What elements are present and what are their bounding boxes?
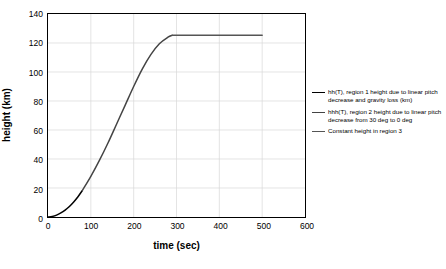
y-tick-label: 120: [29, 38, 43, 48]
legend-line-icon: [312, 112, 325, 113]
legend: hh(T), region 1 height due to linear pit…: [312, 88, 442, 139]
data-curves: [48, 14, 305, 217]
legend-entry: Constant height in region 3: [312, 127, 442, 135]
y-tick-label: 20: [34, 185, 43, 195]
x-tick-label: 400: [214, 221, 228, 231]
legend-label: hh(T), region 1 height due to linear pit…: [328, 88, 442, 105]
legend-entry: hh(T), region 1 height due to linear pit…: [312, 88, 442, 105]
y-tick-label: 60: [34, 126, 43, 136]
legend-label: hhh(T), region 2 height due to linear pi…: [328, 108, 442, 125]
y-tick-label: 140: [29, 9, 43, 19]
legend-line-icon: [312, 131, 325, 132]
x-tick-label: 100: [84, 221, 98, 231]
x-tick-label: 200: [127, 221, 141, 231]
legend-entry: hhh(T), region 2 height due to linear pi…: [312, 108, 442, 125]
y-axis-title: height (km): [1, 88, 12, 142]
legend-label: Constant height in region 3: [328, 127, 402, 135]
x-tick-label: 500: [257, 221, 271, 231]
chart-figure: 020406080100120140 0100200300400500600 h…: [0, 0, 446, 269]
x-axis-title: time (sec): [47, 240, 306, 251]
y-tick-label: 40: [34, 155, 43, 165]
y-tick-label: 0: [38, 214, 43, 224]
x-tick-label: 300: [170, 221, 184, 231]
y-tick-label: 100: [29, 68, 43, 78]
plot-area: 020406080100120140 0100200300400500600: [47, 13, 306, 218]
x-tick-label: 600: [300, 221, 314, 231]
x-tick-label: 0: [46, 221, 51, 231]
legend-line-icon: [312, 92, 325, 93]
y-tick-label: 80: [34, 97, 43, 107]
